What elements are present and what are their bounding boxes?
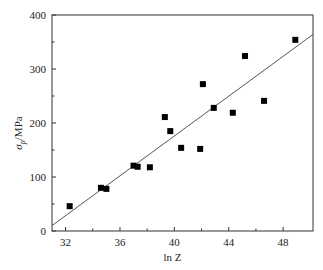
data-point [230, 110, 236, 116]
data-point [103, 186, 109, 192]
data-point [292, 37, 298, 43]
y-tick-label: 100 [30, 171, 47, 183]
x-tick-label: 32 [60, 236, 71, 248]
x-tick-label: 48 [278, 236, 290, 248]
y-axis-label: σp/MPa [12, 116, 27, 149]
x-tick-label: 44 [223, 236, 235, 248]
y-tick-label: 400 [30, 9, 47, 21]
data-point [242, 53, 248, 59]
x-tick-label: 36 [114, 236, 126, 248]
data-point [135, 164, 141, 170]
data-point [197, 146, 203, 152]
y-tick-label: 300 [30, 63, 47, 75]
data-point [67, 203, 73, 209]
data-point [162, 114, 168, 120]
x-tick-label: 40 [169, 236, 181, 248]
data-point [167, 128, 173, 134]
data-point [261, 98, 267, 104]
x-axis-label: ln Z [163, 251, 181, 263]
data-point [211, 105, 217, 111]
y-tick-label: 200 [30, 117, 47, 129]
fit-line [52, 34, 313, 225]
plot-frame [52, 15, 313, 231]
data-point [178, 145, 184, 151]
data-point [200, 81, 206, 87]
data-point [147, 164, 153, 170]
y-tick-label: 0 [41, 225, 47, 237]
data-point [98, 185, 104, 191]
chart: 32364044480100200300400ln Zσp/MPa [0, 0, 323, 270]
